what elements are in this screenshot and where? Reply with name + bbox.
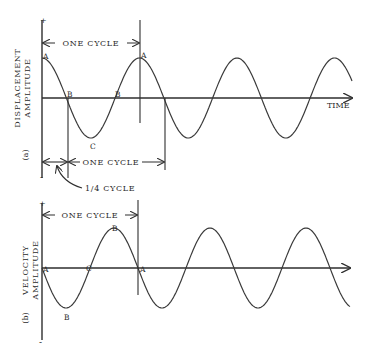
point-a2-label-b: A xyxy=(139,265,146,274)
minus-sign-b: - xyxy=(39,337,42,347)
minus-sign-a: - xyxy=(40,172,43,182)
panel-a-tag: (a) xyxy=(21,149,30,160)
panel-b-velocity: + - VELOCITY AMPLITUDE (b) ONE CYCLE A A… xyxy=(21,199,350,347)
point-b-peak-label: B xyxy=(112,224,118,233)
panel-a-displacement: + - TIME DISPLACEMENT AMPLITUDE (a) ONE … xyxy=(13,16,352,193)
quarter-cycle-label: 1/4 CYCLE xyxy=(85,184,135,193)
ylabel-a-line2: AMPLITUDE xyxy=(23,58,32,118)
panel-b-tag: (b) xyxy=(21,312,30,323)
point-c-label-b: C xyxy=(86,264,92,273)
ylabel-a-line1: DISPLACEMENT xyxy=(13,48,22,127)
ylabel-b: VELOCITY AMPLITUDE xyxy=(21,240,40,300)
point-b1-label: B xyxy=(67,90,73,99)
one-cycle-label-a-bottom: ONE CYCLE xyxy=(83,158,140,167)
ylabel-a: DISPLACEMENT AMPLITUDE xyxy=(13,48,32,127)
ylabel-b-line1: VELOCITY xyxy=(21,245,30,296)
one-cycle-label-b: ONE CYCLE xyxy=(62,211,119,220)
point-c-label: C xyxy=(90,142,96,151)
diagram-canvas: + - TIME DISPLACEMENT AMPLITUDE (a) ONE … xyxy=(0,0,370,359)
point-b2-label: B xyxy=(115,90,121,99)
time-label: TIME xyxy=(327,101,350,110)
one-cycle-label-a-top: ONE CYCLE xyxy=(63,39,120,48)
ylabel-b-line2: AMPLITUDE xyxy=(31,240,40,300)
point-a1-label-b: A xyxy=(42,265,49,274)
quarter-cycle-pointer xyxy=(57,166,82,188)
point-b-trough-label: B xyxy=(64,313,70,322)
plus-sign-a: + xyxy=(40,16,47,25)
point-a2-label: A xyxy=(140,51,147,60)
point-a1-label: A xyxy=(42,52,49,61)
